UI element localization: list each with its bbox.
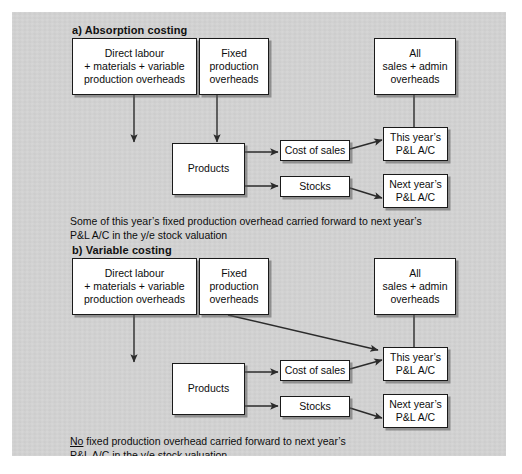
box-a-fixed-production-overheads: Fixed production overheads [199, 38, 269, 95]
box-b-direct-labour: Direct labour + materials + variable pro… [72, 258, 197, 315]
figure-panel: a) Absorption costing Direct labour + ma… [12, 12, 506, 456]
box-b-fixed-production-overheads-text: Fixed production overheads [203, 267, 265, 307]
box-a-this-year-pl-text: This year’s P&L A/C [387, 131, 444, 157]
box-b-direct-labour-text: Direct labour + materials + variable pro… [76, 267, 193, 307]
box-a-direct-labour: Direct labour + materials + variable pro… [72, 38, 197, 95]
box-b-this-year-pl-text: This year’s P&L A/C [387, 351, 444, 377]
section-variable-costing: b) Variable costing Direct labour + mate… [12, 232, 506, 456]
box-b-stocks-text: Stocks [284, 400, 346, 413]
box-b-sales-admin-overheads: All sales + admin overheads [374, 258, 456, 315]
caption-b: No fixed production overhead carried for… [70, 434, 490, 456]
box-a-next-year-pl: Next year’s P&L A/C [383, 174, 448, 208]
box-a-stocks-text: Stocks [284, 180, 346, 193]
box-a-fixed-production-overheads-text: Fixed production overheads [203, 47, 265, 87]
box-b-products-text: Products [176, 382, 241, 395]
box-b-fixed-production-overheads: Fixed production overheads [199, 258, 269, 315]
box-a-next-year-pl-text: Next year’s P&L A/C [387, 178, 444, 204]
box-b-next-year-pl-text: Next year’s P&L A/C [387, 398, 444, 424]
box-a-products: Products [172, 143, 245, 195]
box-b-stocks: Stocks [280, 396, 350, 417]
box-a-cost-of-sales-text: Cost of sales [284, 144, 346, 157]
box-a-direct-labour-text: Direct labour + materials + variable pro… [76, 47, 193, 87]
box-b-this-year-pl: This year’s P&L A/C [383, 347, 448, 381]
section-a-title: a) Absorption costing [72, 24, 187, 36]
box-a-products-text: Products [176, 162, 241, 175]
box-a-sales-admin-overheads: All sales + admin overheads [374, 38, 456, 95]
box-b-cost-of-sales-text: Cost of sales [284, 364, 346, 377]
section-absorption-costing: a) Absorption costing Direct labour + ma… [12, 12, 506, 242]
caption-b-rest: fixed production overhead carried forwar… [70, 435, 346, 456]
box-a-stocks: Stocks [280, 176, 350, 197]
box-b-cost-of-sales: Cost of sales [280, 360, 350, 381]
box-a-sales-admin-overheads-text: All sales + admin overheads [378, 47, 452, 87]
box-b-next-year-pl: Next year’s P&L A/C [383, 394, 448, 428]
caption-b-prefix: No [70, 435, 83, 447]
box-b-products: Products [172, 363, 245, 415]
box-a-this-year-pl: This year’s P&L A/C [383, 127, 448, 161]
box-a-cost-of-sales: Cost of sales [280, 140, 350, 161]
box-b-sales-admin-overheads-text: All sales + admin overheads [378, 267, 452, 307]
section-b-title: b) Variable costing [72, 244, 172, 256]
